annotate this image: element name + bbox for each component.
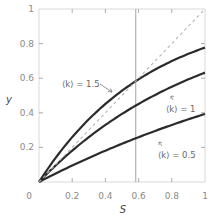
x-tick-label: 1 [202,191,208,201]
y-tick-label: 0.6 [20,73,35,83]
x-tick-labels: 00.20.40.60.81 [26,191,208,201]
y-tick-label: 0.2 [20,142,34,152]
x-tick-label: 0 [26,191,32,201]
annotation-k-1: ⟨k⟩ = 1 [166,104,196,114]
y-tick-label: 1 [28,4,34,14]
annotation-k-1.5: ⟨k⟩ = 1.5 [62,79,100,89]
arrow-icon [171,96,174,100]
x-axis-label: S [120,204,127,215]
arrow-icon [159,142,162,146]
curve-line [39,73,205,182]
x-tick-label: 0.4 [98,191,113,201]
y-tick-label: 0.4 [20,108,35,118]
annotation-k-0.5: ⟨k⟩ = 0.5 [158,150,196,160]
x-tick-label: 0.6 [131,191,146,201]
y-axis-label: y [5,94,13,105]
y-tick-label: 0.8 [20,39,35,49]
x-tick-label: 0.8 [165,191,180,201]
x-tick-label: 0.2 [65,191,79,201]
chart: 00.20.40.60.81 0.20.40.60.81 S y ⟨k⟩ = 1… [0,0,211,219]
y-tick-labels: 0.20.40.60.81 [20,4,35,152]
arrow-icon [100,84,112,92]
